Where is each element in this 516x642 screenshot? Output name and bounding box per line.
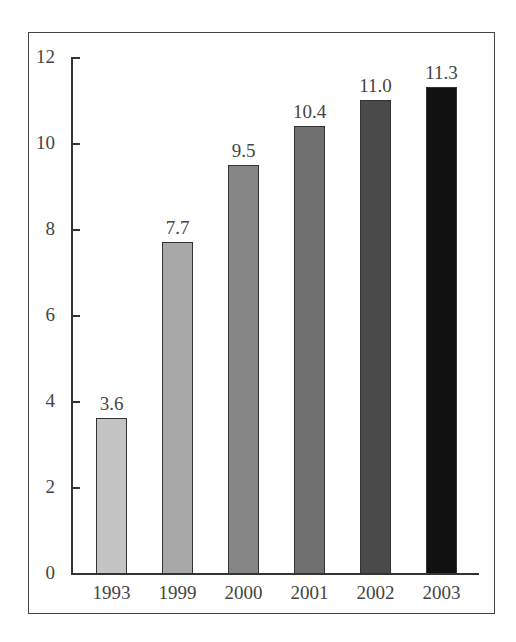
bar-2000: [228, 165, 259, 575]
bar-1993: [96, 418, 127, 574]
y-tick-4: [72, 401, 80, 403]
x-tick-label: 2002: [346, 583, 406, 603]
bar-2002: [360, 100, 391, 574]
y-tick-8: [72, 229, 80, 231]
y-tick-10: [72, 143, 80, 145]
bar-value-label: 11.3: [412, 63, 472, 83]
x-axis: [71, 573, 479, 575]
x-tick-label: 1993: [82, 583, 142, 603]
x-tick-label: 2001: [280, 583, 340, 603]
bar-1999: [162, 242, 193, 574]
bar-2001: [294, 126, 325, 574]
bar-2003: [426, 87, 457, 574]
bar-value-label: 11.0: [346, 76, 406, 96]
bar-value-label: 10.4: [280, 102, 340, 122]
x-tick-label: 2003: [412, 583, 472, 603]
x-tick-label: 2000: [214, 583, 274, 603]
y-tick-label: 2: [15, 477, 55, 497]
y-tick-label: 12: [15, 47, 55, 67]
y-tick-label: 10: [15, 133, 55, 153]
y-tick-6: [72, 315, 80, 317]
y-tick-label: 0: [15, 563, 55, 583]
x-tick-label: 1999: [148, 583, 208, 603]
y-tick-2: [72, 487, 80, 489]
bar-value-label: 3.6: [82, 394, 142, 414]
y-tick-label: 8: [15, 219, 55, 239]
bar-value-label: 7.7: [148, 218, 208, 238]
bar-value-label: 9.5: [214, 141, 274, 161]
y-tick-label: 4: [15, 391, 55, 411]
y-tick-12: [72, 57, 80, 59]
y-tick-label: 6: [15, 305, 55, 325]
